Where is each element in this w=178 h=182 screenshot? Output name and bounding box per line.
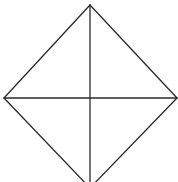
edge-top-left xyxy=(4,5,90,98)
edge-bottom-right xyxy=(90,98,177,182)
edge-bottom-left xyxy=(4,98,90,182)
edge-top-right xyxy=(90,5,177,98)
rhombus-diagram xyxy=(0,0,178,182)
